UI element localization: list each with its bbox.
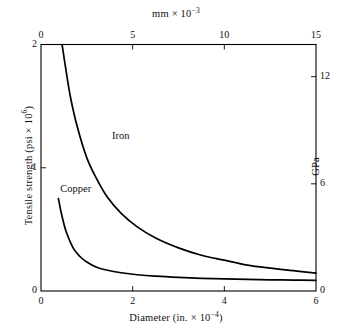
plot-canvas: [0, 0, 352, 333]
xtick-label-2: 2: [121, 295, 145, 306]
x2tick-label-15: 15: [304, 29, 328, 40]
bottom-axis-title: Diameter (in. × 10−4): [0, 312, 352, 323]
y2tick-label-6: 6: [320, 177, 325, 188]
curve-iron: [62, 45, 316, 274]
top-axis-title: mm × 10−3: [0, 8, 352, 19]
ytick-label-1: 1: [13, 161, 37, 172]
x2tick-label-5: 5: [121, 29, 145, 40]
curve-label-copper: Copper: [60, 183, 91, 194]
x2tick-label-0: 0: [29, 29, 53, 40]
curve-label-iron: Iron: [112, 130, 130, 141]
axis-ticks: [41, 45, 316, 292]
xtick-label-0: 0: [29, 295, 53, 306]
data-curves: [58, 45, 316, 281]
plot-border: [41, 45, 316, 292]
tensile-strength-vs-diameter-chart: mm × 10−3 Diameter (in. × 10−4) Tensile …: [0, 0, 352, 333]
x2tick-label-10: 10: [212, 29, 236, 40]
axis-frame: [41, 45, 316, 292]
right-axis-title: GPa: [310, 137, 321, 197]
y2tick-label-12: 12: [320, 70, 330, 81]
ytick-label-0: 0: [13, 284, 37, 295]
curve-copper: [58, 199, 316, 281]
xtick-label-4: 4: [212, 295, 236, 306]
y2tick-label-0: 0: [320, 284, 325, 295]
xtick-label-6: 6: [304, 295, 328, 306]
